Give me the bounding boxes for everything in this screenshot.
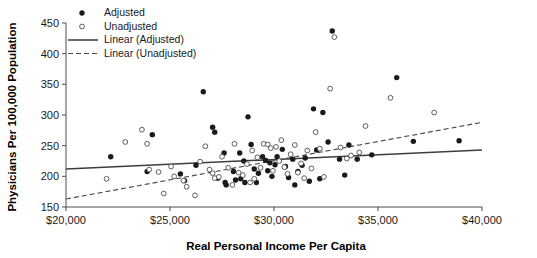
data-point-unadjusted bbox=[216, 175, 221, 180]
data-point-unadjusted bbox=[230, 183, 235, 188]
y-tick-label: 400 bbox=[41, 48, 59, 60]
data-point-unadjusted bbox=[210, 171, 215, 176]
data-point-unadjusted bbox=[245, 162, 250, 167]
data-point-adjusted bbox=[346, 142, 351, 147]
data-point-adjusted bbox=[252, 166, 257, 171]
data-point-unadjusted bbox=[302, 176, 307, 181]
data-point-unadjusted bbox=[248, 180, 253, 185]
data-point-unadjusted bbox=[279, 138, 284, 143]
data-point-unadjusted bbox=[123, 140, 128, 145]
data-point-unadjusted bbox=[274, 144, 279, 149]
data-point-adjusted bbox=[193, 163, 198, 168]
legend-marker-unadjusted bbox=[80, 24, 85, 29]
data-point-unadjusted bbox=[184, 184, 189, 189]
data-point-adjusted bbox=[233, 177, 238, 182]
data-point-adjusted bbox=[150, 132, 155, 137]
data-point-unadjusted bbox=[432, 110, 437, 115]
data-point-adjusted bbox=[231, 169, 236, 174]
data-point-unadjusted bbox=[299, 161, 304, 166]
data-point-unadjusted bbox=[317, 146, 322, 151]
legend-label: Adjusted bbox=[104, 6, 145, 18]
data-point-unadjusted bbox=[232, 141, 237, 146]
data-point-adjusted bbox=[280, 147, 285, 152]
data-point-unadjusted bbox=[288, 152, 293, 157]
data-point-unadjusted bbox=[388, 95, 393, 100]
y-tick-label: 250 bbox=[41, 140, 59, 152]
data-point-adjusted bbox=[337, 156, 342, 161]
data-point-adjusted bbox=[311, 106, 316, 111]
x-tick-label: $30,000 bbox=[254, 214, 294, 226]
y-tick-label: 350 bbox=[41, 78, 59, 90]
data-point-unadjusted bbox=[145, 141, 150, 146]
data-point-unadjusted bbox=[161, 191, 166, 196]
plot-canvas: 150200250300350400450 $20,000$25,000$30,… bbox=[0, 0, 537, 258]
data-point-adjusted bbox=[223, 182, 228, 187]
legend-label: Linear (Unadjusted) bbox=[104, 47, 196, 59]
data-point-unadjusted bbox=[292, 143, 297, 148]
data-point-adjusted bbox=[292, 182, 297, 187]
data-point-unadjusted bbox=[104, 176, 109, 181]
data-point-unadjusted bbox=[250, 148, 255, 153]
data-point-unadjusted bbox=[220, 154, 225, 159]
data-point-unadjusted bbox=[282, 165, 287, 170]
data-point-unadjusted bbox=[268, 146, 273, 151]
data-point-unadjusted bbox=[305, 148, 310, 153]
data-point-adjusted bbox=[245, 114, 250, 119]
data-point-unadjusted bbox=[198, 159, 203, 164]
data-point-unadjusted bbox=[203, 144, 208, 149]
data-point-unadjusted bbox=[255, 155, 260, 160]
y-tick-label: 300 bbox=[41, 109, 59, 121]
data-point-unadjusted bbox=[181, 178, 186, 183]
data-point-unadjusted bbox=[313, 130, 318, 135]
data-point-adjusted bbox=[272, 162, 277, 167]
x-tick-label: $35,000 bbox=[358, 214, 398, 226]
legend-label: Unadjusted bbox=[104, 20, 157, 32]
y-axis-title: Physicians Per 100,000 Population bbox=[6, 22, 18, 211]
data-point-adjusted bbox=[237, 150, 242, 155]
data-point-unadjusted bbox=[349, 153, 354, 158]
trendlines-layer bbox=[66, 122, 482, 199]
scatter-chart: 150200250300350400450 $20,000$25,000$30,… bbox=[0, 0, 537, 258]
legend-label: Linear (Adjusted) bbox=[104, 33, 184, 45]
data-point-adjusted bbox=[303, 155, 308, 160]
trendline-unadjusted bbox=[66, 122, 482, 199]
data-point-unadjusted bbox=[285, 171, 290, 176]
y-axis-ticks: 150200250300350400450 bbox=[41, 17, 66, 213]
data-point-adjusted bbox=[256, 171, 261, 176]
data-point-adjusted bbox=[201, 89, 206, 94]
x-tick-label: $25,000 bbox=[150, 214, 190, 226]
data-point-unadjusted bbox=[193, 193, 198, 198]
data-point-adjusted bbox=[320, 110, 325, 115]
data-point-unadjusted bbox=[172, 174, 177, 179]
data-point-unadjusted bbox=[357, 150, 362, 155]
data-point-adjusted bbox=[369, 152, 374, 157]
data-point-adjusted bbox=[242, 180, 247, 185]
chart-legend: AdjustedUnadjustedLinear (Adjusted)Linea… bbox=[68, 6, 196, 59]
data-point-unadjusted bbox=[140, 127, 145, 132]
data-point-adjusted bbox=[325, 139, 330, 144]
data-point-adjusted bbox=[248, 142, 253, 147]
data-point-unadjusted bbox=[328, 86, 333, 91]
data-point-adjusted bbox=[355, 156, 360, 161]
data-point-adjusted bbox=[108, 154, 113, 159]
data-point-unadjusted bbox=[296, 170, 301, 175]
data-point-adjusted bbox=[210, 125, 215, 130]
legend-marker-adjusted bbox=[79, 10, 84, 15]
data-point-unadjusted bbox=[332, 35, 337, 40]
data-point-adjusted bbox=[307, 179, 312, 184]
data-point-unadjusted bbox=[147, 167, 152, 172]
data-point-adjusted bbox=[212, 129, 217, 134]
y-tick-label: 200 bbox=[41, 170, 59, 182]
data-point-unadjusted bbox=[252, 176, 257, 181]
y-tick-label: 150 bbox=[41, 201, 59, 213]
x-axis-title: Real Personal Income Per Capita bbox=[186, 240, 366, 252]
data-point-unadjusted bbox=[169, 164, 174, 169]
data-point-unadjusted bbox=[258, 165, 263, 170]
x-axis-ticks: $20,000$25,000$30,000$35,000$40,000 bbox=[46, 207, 502, 226]
data-point-unadjusted bbox=[156, 170, 161, 175]
data-point-adjusted bbox=[411, 139, 416, 144]
data-point-unadjusted bbox=[277, 159, 282, 164]
data-point-adjusted bbox=[394, 75, 399, 80]
x-tick-label: $40,000 bbox=[462, 214, 502, 226]
data-point-adjusted bbox=[267, 160, 272, 165]
